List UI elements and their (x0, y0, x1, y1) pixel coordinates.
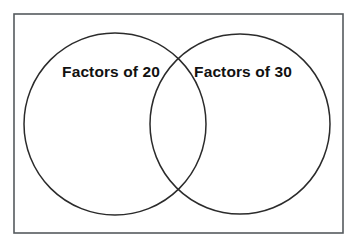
venn-label-left: Factors of 20 (62, 63, 160, 80)
venn-circle-right (150, 34, 330, 214)
venn-circle-left (24, 33, 206, 215)
diagram-border-frame (14, 14, 343, 233)
venn-diagram-canvas: Factors of 20 Factors of 30 (0, 0, 353, 241)
venn-label-right: Factors of 30 (194, 63, 292, 80)
venn-diagram-svg: Factors of 20 Factors of 30 (0, 0, 353, 241)
